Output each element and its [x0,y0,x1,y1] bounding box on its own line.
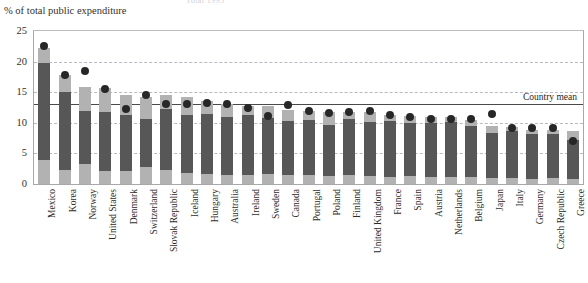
x-tick-label: Netherlands [454,189,464,235]
bar-segment-lower [282,175,294,184]
bar-segment-middle [262,118,274,174]
x-tick-label: United Kingdom [373,189,383,253]
country-marker-dot [142,91,150,99]
country-marker-dot [508,124,516,132]
bar-segment-middle [323,125,335,176]
bar-segment-lower [201,174,213,184]
bar-segment-middle [364,122,376,176]
bar-segment-middle [160,109,172,170]
gridline [34,62,583,63]
x-tick-label: Australia [230,189,240,224]
x-tick-label: Japan [495,189,505,211]
country-marker-dot [284,101,292,109]
bar-segment-lower [323,176,335,184]
bar-segment-lower [384,177,396,184]
bar-segment-lower [445,177,457,184]
bar-segment-middle [506,131,518,178]
x-tick-label: United States [108,189,118,240]
bar-segment-middle [303,120,315,174]
x-tick-label: Canada [291,189,301,218]
cut-off-header-text: Total 1995 [186,0,346,5]
bar-segment-lower [99,171,111,184]
bar-segment-lower [79,164,91,184]
country-marker-dot [183,100,191,108]
x-tick-label: Czech Republic [556,189,566,249]
country-marker-dot [305,107,313,115]
x-tick-label: Korea [68,189,78,212]
country-marker-dot [203,99,211,107]
country-marker-dot [162,100,170,108]
country-marker-dot [528,124,536,132]
country-marker-dot [366,107,374,115]
bar-segment-lower [526,179,538,185]
bar-segment-lower [506,178,518,184]
x-tick-label: Italy [515,189,525,206]
bar-segment-middle [99,112,111,171]
x-tick-label: Ireland [251,189,261,216]
y-tick-label: 20 [0,55,27,66]
x-tick-label: Germany [535,189,545,224]
country-marker-dot [244,104,252,112]
country-marker-dot [406,113,414,121]
bar-segment-middle [425,123,437,176]
bar-segment-middle [465,126,477,177]
chart-figure: Total 1995 % of total public expenditure… [0,0,588,283]
x-tick-label: Iceland [190,189,200,217]
bar-segment-lower [425,177,437,184]
bar-segment-middle [140,119,152,168]
country-marker-dot [488,110,496,118]
gridline [34,92,583,93]
country-marker-dot [447,115,455,123]
country-marker-dot [549,124,557,132]
bar-segment-middle [221,117,233,175]
bar-segment-middle [79,111,91,164]
x-tick-label: Denmark [129,189,139,224]
plot-area: Country mean [33,30,584,185]
x-tick-label: Spain [413,189,423,211]
bar-segment-middle [282,121,294,175]
bar-segment-lower [59,170,71,184]
y-tick-label: 15 [0,86,27,97]
country-marker-dot [264,112,272,120]
x-tick-label: Hungary [210,189,220,222]
bar-segment-lower [120,171,132,184]
country-marker-dot [101,85,109,93]
country-marker-dot [386,111,394,119]
bar-segment-lower [221,175,233,184]
x-tick-label: France [393,189,403,215]
country-marker-dot [569,137,577,145]
country-marker-dot [427,115,435,123]
country-marker-dot [223,100,231,108]
bar-segment-middle [38,63,50,160]
bar-segment-middle [384,121,396,177]
bar-segment-lower [364,176,376,184]
country-marker-dot [61,71,69,79]
x-tick-label: Belgium [474,189,484,222]
bar-segment-lower [38,160,50,184]
bar-segment-lower [465,177,477,184]
x-tick-label: Switzerland [149,189,159,234]
x-tick-label: Mexico [47,189,57,218]
bar-segment-middle [547,134,559,178]
bar-segment-lower [547,178,559,184]
bar-segment-middle [486,133,498,178]
bar-segment-middle [567,140,579,179]
x-tick-label: Austria [434,189,444,217]
x-tick-label: Slovak Republic [169,189,179,252]
bar-segment-upper [38,48,50,63]
mean-line [34,104,583,105]
x-tick-label: Sweden [271,189,281,219]
x-tick-label: Portugal [312,189,322,221]
country-marker-dot [81,67,89,75]
country-marker-dot [467,115,475,123]
bar-segment-lower [140,167,152,184]
bar-segment-upper [79,87,91,110]
country-marker-dot [325,109,333,117]
bar-segment-middle [404,123,416,176]
bar-segment-middle [343,119,355,175]
country-mean-label: Country mean [523,92,577,102]
country-marker-dot [122,105,130,113]
y-tick-label: 0 [0,178,27,189]
bar-segment-lower [181,173,193,184]
y-tick-label: 10 [0,116,27,127]
